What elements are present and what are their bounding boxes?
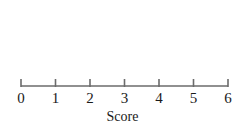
tick-label-5: 5 (182, 91, 206, 106)
tick-label-0: 0 (9, 91, 33, 106)
tick-label-1: 1 (44, 91, 68, 106)
dot-plot-figure: 0123456 Score (0, 0, 245, 130)
axis-title-score: Score (0, 110, 245, 124)
tick-label-6: 6 (216, 91, 240, 106)
tick-label-3: 3 (113, 91, 137, 106)
tick-label-4: 4 (147, 91, 171, 106)
tick-label-2: 2 (78, 91, 102, 106)
